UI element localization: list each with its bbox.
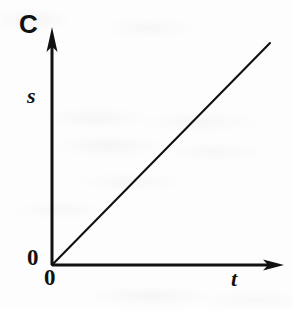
x-axis-label: t <box>231 268 237 290</box>
data-line-s-vs-t <box>52 43 270 265</box>
graph-figure: C s t 0 0 <box>0 0 292 310</box>
y-axis-label: s <box>27 85 36 107</box>
panel-label-c: C <box>19 11 38 37</box>
origin-label-x: 0 <box>44 266 56 289</box>
axes-and-plot <box>0 0 292 310</box>
origin-label-y: 0 <box>27 246 39 269</box>
